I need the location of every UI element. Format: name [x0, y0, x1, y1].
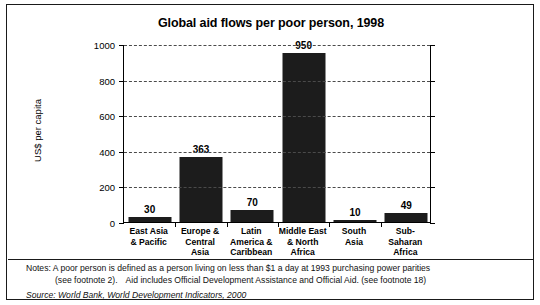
gridline-1000	[124, 45, 430, 46]
x-axis-label-line: South	[328, 226, 379, 237]
y-tick-left-1000	[119, 45, 124, 46]
y-tick-right-1000	[430, 45, 435, 46]
bar[interactable]	[282, 53, 325, 222]
x-axis-label-line: Europe &	[174, 226, 225, 237]
notes-line-2a: (see footnote 2).	[55, 275, 118, 285]
x-axis-label: Europe &CentralAsia	[174, 226, 225, 258]
bar[interactable]	[179, 157, 222, 222]
chart-figure: Global aid flows per poor person, 1998 U…	[0, 0, 540, 305]
y-tick-right-600	[430, 116, 435, 117]
bar-slot: 10	[329, 45, 380, 222]
y-tick-right-0	[430, 223, 435, 224]
bar-value-label: 10	[349, 207, 360, 218]
gridline-600	[124, 116, 430, 117]
notes-block: Notes: A poor person is defined as a per…	[7, 262, 535, 301]
x-axis-label-line: Caribbean	[226, 247, 277, 258]
x-axis-label: East Asia& Pacific	[123, 226, 174, 247]
x-axis-label-line: Middle East	[277, 226, 328, 237]
notes-divider	[8, 259, 534, 260]
y-tick-left-600	[119, 116, 124, 117]
y-tick-label-400: 400	[99, 146, 115, 157]
y-tick-label-0: 0	[110, 218, 115, 229]
notes-line-1: Notes: A poor person is defined as a per…	[7, 262, 535, 274]
bar-value-label: 70	[247, 197, 258, 208]
gridline-400	[124, 152, 430, 153]
gridline-200	[124, 187, 430, 188]
x-axis-label-line: America &	[226, 237, 277, 248]
x-axis-label-line: & North	[277, 237, 328, 248]
y-tick-label-200: 200	[99, 182, 115, 193]
gridline-800	[124, 81, 430, 82]
x-axis-label: Middle East& NorthAfrica	[277, 226, 328, 258]
x-axis-label-line: & Pacific	[123, 237, 174, 248]
y-tick-left-400	[119, 152, 124, 153]
x-axis-label-line: Central	[174, 237, 225, 248]
x-axis-label-line: Asia	[328, 237, 379, 248]
x-axis-label-line: Africa	[380, 247, 431, 258]
bar[interactable]	[128, 217, 171, 222]
y-tick-label-600: 600	[99, 111, 115, 122]
x-axis-label-line: East Asia	[123, 226, 174, 237]
source-line: Source: World Bank, World Development In…	[7, 287, 535, 301]
y-tick-right-800	[430, 81, 435, 82]
y-tick-left-200	[119, 187, 124, 188]
y-tick-right-400	[430, 152, 435, 153]
x-axis-label: LatinAmerica &Caribbean	[226, 226, 277, 258]
y-tick-left-0	[119, 223, 124, 224]
bar-value-label: 363	[193, 144, 210, 155]
x-axis-label: SouthAsia	[328, 226, 379, 247]
bar-value-label: 30	[144, 204, 155, 215]
x-axis-label-line: Asia	[174, 247, 225, 258]
bar[interactable]	[231, 210, 274, 222]
plot-area: US$ per capita 30363709501049 0200400600…	[7, 5, 535, 301]
bar-value-label: 49	[401, 200, 412, 211]
notes-line-2b: Aid includes Official Development Assist…	[126, 275, 427, 285]
bar-slot: 49	[381, 45, 432, 222]
y-tick-left-800	[119, 81, 124, 82]
y-tick-right-200	[430, 187, 435, 188]
y-tick-label-1000: 1000	[94, 40, 115, 51]
figure-frame: Global aid flows per poor person, 1998 U…	[6, 4, 534, 300]
y-axis-title: US$ per capita	[32, 76, 43, 186]
x-axis-category-labels: East Asia& PacificEurope &CentralAsiaLat…	[123, 226, 431, 266]
x-axis-label-line: Latin	[226, 226, 277, 237]
x-axis-label-line: Sub-Saharan	[380, 226, 431, 247]
bar-slot: 70	[227, 45, 278, 222]
y-tick-label-800: 800	[99, 75, 115, 86]
bar-slot: 30	[124, 45, 175, 222]
bars-layer: 30363709501049	[124, 45, 430, 222]
x-axis-label: Sub-SaharanAfrica	[380, 226, 431, 258]
x-axis-label-line: Africa	[277, 247, 328, 258]
notes-line-2: (see footnote 2).Aid includes Official D…	[7, 274, 535, 286]
axis-area: 30363709501049 02004006008001000	[123, 45, 431, 223]
bar-slot: 950	[278, 45, 329, 222]
bar-slot: 363	[175, 45, 226, 222]
bar[interactable]	[333, 220, 376, 222]
bar[interactable]	[385, 213, 428, 222]
